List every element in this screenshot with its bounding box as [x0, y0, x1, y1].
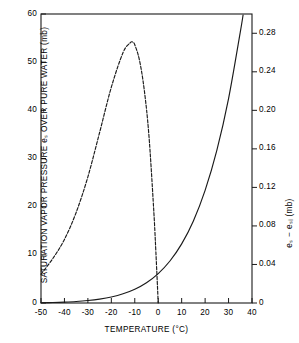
- left-tick-label-3: 30: [5, 153, 37, 162]
- right-tick-label-6: 0.24: [259, 66, 289, 75]
- x-axis-title-text: TEMPERATURE (°C): [105, 325, 189, 334]
- saturation-vapor-pressure-chart: SATURATION VAPOR PRESSURE eₛ OVER PURE W…: [0, 0, 299, 343]
- right-tick-label-0: 0: [259, 298, 289, 307]
- right-tick-label-2: 0.08: [259, 220, 289, 229]
- plot-frame: [41, 14, 252, 303]
- series-line-es-minus-esi: [41, 42, 158, 303]
- left-axis-title-text: SATURATION VAPOR PRESSURE eₛ OVER PURE W…: [40, 27, 49, 284]
- left-tick-label-0: 0: [5, 298, 37, 307]
- bottom-tick-label-9: 40: [237, 308, 267, 317]
- left-tick-label-2: 20: [5, 201, 37, 210]
- left-axis-title: SATURATION VAPOR PRESSURE eₛ OVER PURE W…: [39, 25, 49, 285]
- right-tick-label-3: 0.12: [259, 182, 289, 191]
- series-line-es-water: [41, 15, 243, 303]
- right-axis-ticks: [252, 33, 257, 303]
- x-axis-title: TEMPERATURE (°C): [41, 325, 252, 334]
- left-tick-label-1: 10: [5, 249, 37, 258]
- right-tick-label-5: 0.20: [259, 105, 289, 114]
- right-tick-label-4: 0.16: [259, 143, 289, 152]
- left-tick-label-6: 60: [5, 9, 37, 18]
- left-tick-label-5: 50: [5, 57, 37, 66]
- right-tick-label-7: 0.28: [259, 28, 289, 37]
- left-tick-label-4: 40: [5, 105, 37, 114]
- plot-frame-rect: [41, 14, 252, 303]
- right-tick-label-1: 0.04: [259, 259, 289, 268]
